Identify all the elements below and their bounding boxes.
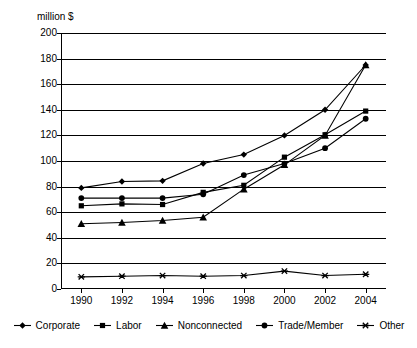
- x-tick-mark-1994: [163, 289, 164, 293]
- y-axis-tick-labels: 200180160140120100806040200: [27, 33, 57, 289]
- legend-marker-triangle-icon: [155, 320, 174, 331]
- legend-item-nonconnected[interactable]: Nonconnected: [155, 320, 243, 331]
- data-point-diamond: [241, 151, 247, 157]
- x-tick-label-1992: 1992: [99, 295, 145, 306]
- x-tick-label-1998: 1998: [221, 295, 267, 306]
- data-point-asterisk: [281, 268, 288, 273]
- y-tick-label-80: 80: [27, 182, 57, 192]
- data-point-circle: [241, 172, 247, 178]
- data-point-circle: [160, 195, 166, 201]
- data-point-circle: [282, 161, 288, 167]
- y-tick-label-200: 200: [27, 28, 57, 38]
- legend-label: Nonconnected: [178, 320, 243, 331]
- legend-label: Trade/Member: [278, 320, 343, 331]
- data-point-square: [119, 201, 124, 206]
- data-point-asterisk: [118, 274, 125, 279]
- y-tick-label-120: 120: [27, 130, 57, 140]
- legend-marker-square-icon: [93, 320, 112, 331]
- data-point-square: [282, 155, 287, 160]
- data-point-square: [100, 323, 105, 328]
- y-tick-label-40: 40: [27, 233, 57, 243]
- series-trade-member: [78, 116, 368, 201]
- legend-item-trade-member[interactable]: Trade/Member: [255, 320, 343, 331]
- data-point-diamond: [200, 160, 206, 166]
- x-tick-mark-2000: [284, 289, 285, 293]
- data-point-circle: [78, 195, 84, 201]
- x-tick-mark-1998: [244, 289, 245, 293]
- y-tick-label-20: 20: [27, 258, 57, 268]
- data-point-diamond: [281, 132, 287, 138]
- legend-label: Corporate: [36, 320, 80, 331]
- legend-label: Labor: [116, 320, 142, 331]
- x-tick-mark-1996: [203, 289, 204, 293]
- data-point-circle: [322, 145, 328, 151]
- data-point-triangle: [240, 185, 248, 192]
- y-tick-label-100: 100: [27, 156, 57, 166]
- data-point-asterisk: [159, 273, 166, 278]
- series-line: [81, 119, 365, 198]
- data-point-diamond: [119, 178, 125, 184]
- legend-item-labor[interactable]: Labor: [93, 320, 142, 331]
- series-layer: [61, 33, 386, 289]
- legend: CorporateLaborNonconnectedTrade/MemberOt…: [0, 320, 417, 331]
- y-tick-label-140: 140: [27, 105, 57, 115]
- x-tick-label-1994: 1994: [140, 295, 186, 306]
- data-point-asterisk: [321, 273, 328, 278]
- data-point-asterisk: [200, 274, 207, 279]
- data-point-diamond: [19, 322, 25, 328]
- data-point-asterisk: [78, 274, 85, 279]
- y-tick-label-180: 180: [27, 54, 57, 64]
- series-line: [81, 111, 365, 206]
- line-chart: million $ 200180160140120100806040200 19…: [0, 0, 417, 348]
- data-point-asterisk: [362, 323, 369, 328]
- data-point-circle: [363, 116, 369, 122]
- data-point-square: [160, 202, 165, 207]
- x-tick-label-1996: 1996: [180, 295, 226, 306]
- y-tick-label-160: 160: [27, 79, 57, 89]
- x-tick-label-2002: 2002: [302, 295, 348, 306]
- y-tick-label-60: 60: [27, 207, 57, 217]
- data-point-square: [79, 203, 84, 208]
- legend-marker-diamond-icon: [13, 320, 32, 331]
- series-labor: [79, 108, 369, 208]
- y-axis-title: million $: [37, 11, 74, 22]
- data-point-diamond: [159, 178, 165, 184]
- series-corporate: [78, 62, 369, 191]
- y-tick-label-0: 0: [27, 284, 57, 294]
- x-tick-mark-2004: [366, 289, 367, 293]
- series-line: [81, 65, 365, 188]
- x-tick-label-2000: 2000: [261, 295, 307, 306]
- legend-marker-asterisk-icon: [356, 320, 375, 331]
- series-other: [78, 268, 370, 279]
- x-tick-mark-2002: [325, 289, 326, 293]
- data-point-circle: [119, 195, 125, 201]
- data-point-asterisk: [362, 272, 369, 277]
- x-axis: 19901992199419961998200020022004: [61, 289, 386, 315]
- x-tick-mark-1992: [122, 289, 123, 293]
- legend-item-corporate[interactable]: Corporate: [13, 320, 80, 331]
- data-point-square: [363, 108, 368, 113]
- legend-item-other[interactable]: Other: [356, 320, 404, 331]
- data-point-asterisk: [240, 273, 247, 278]
- data-point-diamond: [78, 185, 84, 191]
- data-point-circle: [200, 191, 206, 197]
- legend-marker-circle-icon: [255, 320, 274, 331]
- legend-label: Other: [379, 320, 404, 331]
- data-point-circle: [262, 323, 268, 329]
- x-tick-label-2004: 2004: [343, 295, 389, 306]
- x-tick-label-1990: 1990: [58, 295, 104, 306]
- x-tick-mark-1990: [81, 289, 82, 293]
